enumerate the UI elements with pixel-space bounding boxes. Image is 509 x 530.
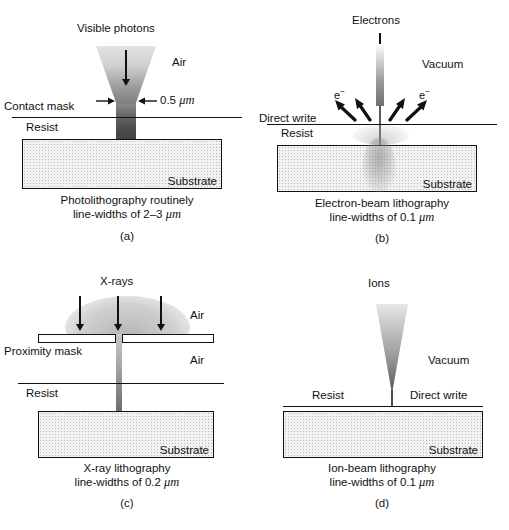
ion-beam-cone bbox=[376, 304, 408, 390]
panel-d-stage: Ions Vacuum Resist Direct write Substrat… bbox=[255, 265, 509, 465]
caption-unit: μm bbox=[164, 475, 179, 489]
panel-letter-c: (c) bbox=[0, 497, 254, 509]
electron-interaction-volume bbox=[362, 138, 396, 192]
substrate-label: Substrate bbox=[160, 444, 209, 456]
dimension-arrow-left bbox=[96, 96, 116, 106]
caption-line-2-text: line-widths of 0.2 bbox=[75, 476, 161, 488]
proximity-mask-left bbox=[38, 334, 116, 343]
beam-label-visible-photons: Visible photons bbox=[77, 22, 155, 35]
caption-line-2: line-widths of 0.2 μm bbox=[0, 475, 254, 489]
medium-label-air: Air bbox=[172, 56, 186, 69]
xray-arrow-left bbox=[74, 296, 86, 331]
caption-unit: μm bbox=[419, 475, 434, 489]
proximity-mask-label: Proximity mask bbox=[4, 345, 82, 358]
resist-label: Resist bbox=[312, 389, 344, 402]
panel-xray-lithography: X-rays Air Proximity mask Air Resist bbox=[0, 265, 254, 530]
dimension-value: 0.5 bbox=[160, 94, 176, 106]
medium-label-vacuum: Vacuum bbox=[428, 354, 469, 367]
panel-letter-a: (a) bbox=[0, 230, 254, 242]
caption-line-2-text: line-widths of 2–3 bbox=[73, 208, 163, 220]
resist-surface-line bbox=[283, 406, 483, 407]
caption-line-1: X-ray lithography bbox=[0, 461, 254, 475]
substrate-label: Substrate bbox=[423, 178, 472, 190]
electron-beam-column bbox=[376, 44, 384, 106]
scatter-arrow-left-inner bbox=[350, 96, 374, 122]
substrate-block: Substrate bbox=[38, 411, 214, 458]
panel-c-caption: X-ray lithography line-widths of 0.2 μm bbox=[0, 461, 254, 489]
direct-write-label: Direct write bbox=[410, 389, 468, 402]
ion-beam-tip bbox=[391, 390, 393, 407]
dimension-unit: μm bbox=[179, 93, 194, 107]
caption-line-2-text: line-widths of 0.1 bbox=[330, 476, 416, 488]
beam-label-xrays: X-rays bbox=[100, 275, 133, 288]
caption-unit: μm bbox=[166, 207, 181, 221]
resist-label: Resist bbox=[281, 127, 313, 140]
resist-label: Resist bbox=[26, 387, 58, 400]
substrate-label: Substrate bbox=[429, 444, 478, 456]
panel-letter-d: (d) bbox=[255, 497, 509, 509]
panel-photolithography: Visible photons Air 0.5 μm Contact mask bbox=[0, 0, 254, 265]
contact-mask-line bbox=[12, 117, 242, 118]
medium-label-air-upper: Air bbox=[190, 309, 204, 322]
panel-d-caption: Ion-beam lithography line-widths of 0.1 … bbox=[255, 461, 509, 489]
panel-a-stage: Visible photons Air 0.5 μm Contact mask bbox=[0, 0, 254, 200]
scatter-arrow-right-outer bbox=[405, 96, 431, 122]
beam-label-ions: Ions bbox=[368, 277, 390, 290]
xray-arrow-right bbox=[155, 296, 167, 331]
substrate-label: Substrate bbox=[168, 175, 217, 187]
panel-b-stage: Electrons Vacuum e− e− bbox=[255, 0, 509, 200]
medium-label-air-lower: Air bbox=[190, 354, 204, 367]
beam-direction-arrow bbox=[119, 50, 133, 86]
panel-letter-b: (b) bbox=[255, 232, 509, 244]
medium-label-vacuum: Vacuum bbox=[422, 58, 463, 71]
lithography-comparison-figure: Visible photons Air 0.5 μm Contact mask bbox=[0, 0, 509, 530]
substrate-block: Substrate bbox=[283, 411, 483, 458]
resist-label: Resist bbox=[26, 121, 58, 134]
caption-line-1: Ion-beam lithography bbox=[255, 461, 509, 475]
dimension-label: 0.5 μm bbox=[160, 94, 195, 107]
panel-ion-beam-lithography: Ions Vacuum Resist Direct write Substrat… bbox=[255, 265, 509, 530]
proximity-mask-right bbox=[122, 334, 214, 343]
resist-surface-line bbox=[18, 383, 224, 384]
caption-line-1: Photolithography routinely bbox=[0, 193, 254, 207]
beam-label-electrons: Electrons bbox=[352, 14, 400, 27]
caption-line-1: Electron-beam lithography bbox=[255, 196, 509, 210]
xray-arrow-center bbox=[112, 296, 124, 331]
caption-line-2: line-widths of 2–3 μm bbox=[0, 207, 254, 221]
caption-unit: μm bbox=[419, 210, 434, 224]
substrate-block: Substrate bbox=[277, 145, 477, 192]
substrate-block: Substrate bbox=[22, 139, 222, 189]
contact-mask-label: Contact mask bbox=[4, 100, 74, 113]
caption-line-2: line-widths of 0.1 μm bbox=[255, 475, 509, 489]
caption-line-2: line-widths of 0.1 μm bbox=[255, 210, 509, 224]
panel-a-caption: Photolithography routinely line-widths o… bbox=[0, 193, 254, 221]
dimension-arrow-right bbox=[137, 96, 157, 106]
panel-c-stage: X-rays Air Proximity mask Air Resist bbox=[0, 265, 254, 465]
panel-b-caption: Electron-beam lithography line-widths of… bbox=[255, 196, 509, 224]
caption-line-2-text: line-widths of 0.1 bbox=[330, 211, 416, 223]
panel-electron-beam-lithography: Electrons Vacuum e− e− bbox=[255, 0, 509, 265]
